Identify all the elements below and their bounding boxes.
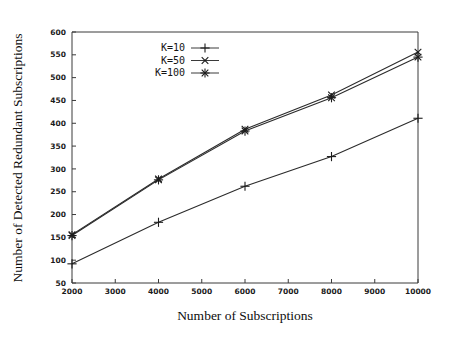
y-tick-label: 150 [50, 233, 66, 242]
y-tick-label: 250 [50, 187, 66, 196]
line-chart: 50100150200250300350400450500550600 2000… [0, 0, 454, 340]
x-tick-label: 9000 [364, 287, 385, 296]
data-point [240, 182, 249, 191]
legend-marker-k-100 [200, 68, 209, 77]
data-point [240, 126, 249, 135]
x-axis-title: Number of Subscriptions [177, 308, 313, 323]
data-point [154, 175, 163, 184]
x-tick-label: 2000 [62, 287, 83, 296]
series-k-50 [69, 49, 422, 238]
x-tick-label: 7000 [278, 287, 299, 296]
legend-label-k-10: K=10 [161, 42, 185, 53]
x-tick-label: 10000 [405, 287, 431, 296]
series-k-10 [67, 114, 422, 269]
y-tick-label: 100 [50, 256, 66, 265]
legend-label-k-100: K=100 [155, 67, 185, 78]
series-layer [67, 49, 422, 269]
y-axis-title: Number of Detected Redundant Subscriptio… [10, 34, 25, 283]
series-k-100 [67, 53, 422, 241]
series-line [72, 118, 418, 264]
y-tick-label: 600 [50, 28, 66, 37]
x-tick-label: 8000 [321, 287, 342, 296]
y-tick-label: 300 [50, 165, 66, 174]
x-tick-label: 5000 [191, 287, 212, 296]
chart-legend: K=10K=50K=100 [155, 42, 219, 78]
data-point [413, 114, 422, 123]
data-point [327, 152, 336, 161]
series-line [72, 52, 418, 235]
y-tick-label: 350 [50, 142, 66, 151]
data-point [154, 218, 163, 227]
y-tick-label: 200 [50, 210, 66, 219]
data-point [67, 231, 76, 240]
x-tick-label: 4000 [148, 287, 169, 296]
plot-frame [72, 32, 418, 283]
data-point [327, 93, 336, 102]
legend-label-k-50: K=50 [161, 55, 185, 66]
x-tick-label: 6000 [235, 287, 256, 296]
x-axis-ticks: 2000300040005000600070008000900010000 [62, 279, 431, 296]
y-tick-label: 400 [50, 119, 66, 128]
y-tick-label: 550 [50, 50, 66, 59]
y-tick-label: 500 [50, 73, 66, 82]
data-point [413, 53, 422, 62]
series-line [72, 57, 418, 235]
legend-marker-k-10 [200, 43, 209, 52]
chart-figure: 50100150200250300350400450500550600 2000… [0, 0, 454, 340]
y-tick-label: 450 [50, 96, 66, 105]
x-tick-label: 3000 [105, 287, 126, 296]
